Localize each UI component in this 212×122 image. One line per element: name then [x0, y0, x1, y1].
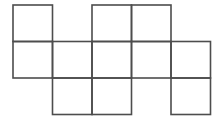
cell-r3c2-fill [53, 78, 93, 115]
grid-cell-group [13, 5, 211, 115]
figure-canvas [0, 0, 212, 122]
cell-r2c3-fill [92, 42, 132, 79]
cell-r1c1-fill [13, 5, 53, 42]
cell-r2c1-fill [13, 42, 53, 79]
cell-r3c5-fill [171, 78, 211, 115]
cell-r1c4-fill [132, 5, 172, 42]
cell-r1c3-fill [92, 5, 132, 42]
cell-r2c4-fill [132, 42, 172, 79]
cell-r2c2-fill [53, 42, 93, 79]
cell-r3c3-fill [92, 78, 132, 115]
square-net-figure [0, 0, 212, 122]
cell-r2c5-fill [171, 42, 211, 79]
